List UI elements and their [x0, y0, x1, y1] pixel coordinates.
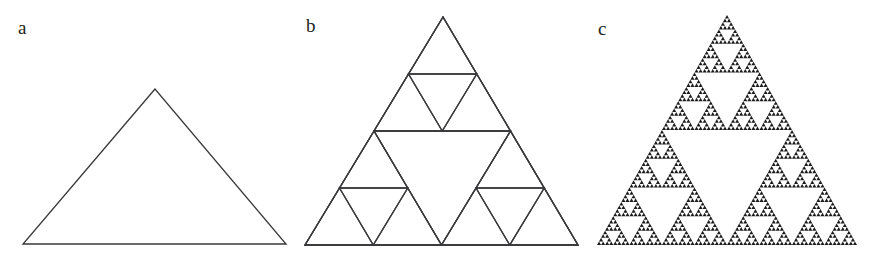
sierpinski-figure: a b c — [0, 0, 876, 253]
panel-b: b — [292, 0, 584, 253]
panel-a: a — [0, 0, 292, 253]
sierpinski-leaf-triangles — [597, 15, 857, 245]
sierpinski-filled-iteration-6 — [584, 0, 876, 253]
sierpinski-outline-iteration-2 — [292, 0, 584, 253]
triangle-outline-iteration-0 — [0, 0, 292, 253]
panel-c: c — [584, 0, 876, 253]
